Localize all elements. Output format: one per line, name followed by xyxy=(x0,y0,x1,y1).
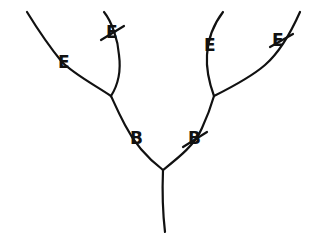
label-left-outer-e: E xyxy=(58,54,70,71)
label-right-inner-e: E xyxy=(204,37,216,54)
trunk xyxy=(163,170,165,232)
label-right-b-crossed: B xyxy=(188,130,201,147)
tree-diagram: E E E E B B xyxy=(0,0,315,243)
tree-branches xyxy=(0,0,315,243)
right-outer-twig xyxy=(214,12,300,96)
label-right-outer-e-crossed: E xyxy=(272,32,284,49)
label-left-inner-e-crossed: E xyxy=(106,24,118,41)
label-left-b: B xyxy=(130,130,143,147)
